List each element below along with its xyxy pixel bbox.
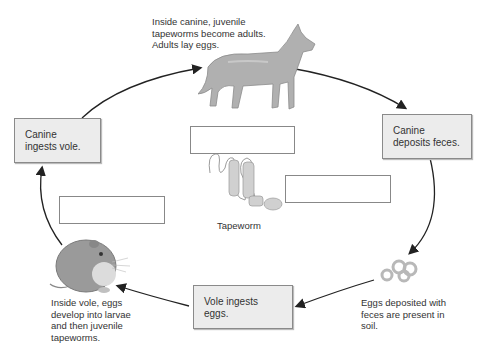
- stage-vole-ingests-eggs: Vole ingests eggs.: [193, 285, 293, 329]
- caption-canine: Inside canine, juvenile tapeworms become…: [152, 16, 292, 51]
- blank-box-vole[interactable]: [59, 196, 165, 224]
- vole-illustration: [48, 232, 133, 298]
- stage-label: Canine deposits feces.: [393, 125, 460, 148]
- caption-eggs: Eggs deposited with feces are present in…: [361, 297, 461, 332]
- eggs-illustration: [377, 255, 427, 285]
- stage-label: Vole ingests eggs.: [204, 296, 258, 319]
- caption-vole: Inside vole, eggs develop into larvae an…: [51, 297, 141, 343]
- stage-canine-ingests-vole: Canine ingests vole.: [14, 118, 101, 163]
- stage-canine-deposits-feces: Canine deposits feces.: [382, 114, 472, 159]
- tapeworm-illustration: [205, 148, 283, 218]
- stage-label: Canine ingests vole.: [25, 129, 81, 152]
- blank-box-canine[interactable]: [190, 126, 295, 154]
- caption-tapeworm: Tapeworm: [217, 220, 261, 232]
- blank-box-tapeworm[interactable]: [285, 175, 391, 203]
